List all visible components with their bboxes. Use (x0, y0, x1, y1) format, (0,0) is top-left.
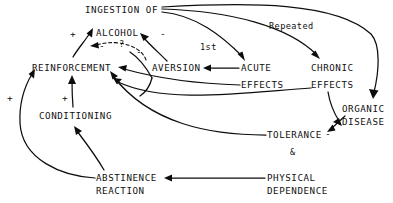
sign-plus-abstinence-to-reinforcement: + (7, 93, 13, 103)
edge-reinforcement-to-ingestion (73, 28, 93, 57)
edge-physical-to-abstinence (164, 175, 265, 182)
node-reinforcement: REINFORCEMENT (32, 62, 111, 75)
edge-conditioning-to-reinforcement (68, 75, 76, 107)
edge-ingestion-to-chronic (162, 9, 320, 59)
edge-label-question-mark: ? (119, 39, 125, 49)
edge-ingestion-to-acute (162, 12, 245, 61)
node-abstinence-reaction-line1: ABSTINENCE (96, 172, 157, 185)
sign-minus-aversion-curve: - (136, 47, 142, 57)
node-tolerance: TOLERANCE (267, 129, 322, 142)
node-chronic-effects-line2: EFFECTS (311, 79, 354, 92)
sign-minus-organic-to-tolerance: - (325, 129, 331, 139)
node-organic-disease-line1: ORGANIC (342, 103, 385, 116)
node-aversion: AVERSION (152, 62, 201, 75)
diagram-edges-layer (0, 0, 393, 203)
node-physical-dependence-line2: DEPENDENCE (267, 185, 328, 198)
node-ingestion-of-alcohol-line1: INGESTION OF (85, 4, 158, 17)
sign-plus-conditioning-to-reinforcement: + (62, 93, 68, 103)
edge-abstinence-to-reinforcement (20, 69, 95, 178)
node-acute-effects-line1: ACUTE (241, 62, 271, 75)
edge-abstinence-to-conditioning (74, 126, 104, 170)
node-physical-dependence-line1: PHYSICAL (267, 172, 316, 185)
edge-acute-to-aversion (203, 65, 239, 72)
node-organic-disease-line2: DISEASE (342, 116, 385, 129)
sign-minus-dashed-to-reinforcement: - (99, 41, 105, 51)
edge-label-ampersand: & (290, 147, 295, 157)
edge-label-repeated: Repeated (269, 21, 314, 31)
diagram-canvas: INGESTION OF ALCOHOL REINFORCEMENT AVERS… (0, 0, 393, 203)
edge-label-first: 1st (200, 42, 217, 52)
node-conditioning: CONDITIONING (39, 110, 112, 123)
sign-minus-aversion-to-alcohol: - (160, 29, 166, 39)
node-abstinence-reaction-line2: REACTION (96, 185, 145, 198)
node-ingestion-of-alcohol-line2: ALCOHOL (96, 27, 139, 40)
node-acute-effects-line2: EFFECTS (241, 79, 284, 92)
sign-plus-reinforcement-to-alcohol: + (70, 29, 76, 39)
node-chronic-effects-line1: CHRONIC (311, 62, 354, 75)
